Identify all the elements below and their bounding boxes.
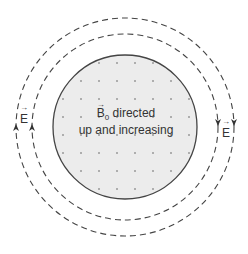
field-description: B0 directed up and increasing bbox=[78, 107, 174, 137]
e-field-label-left: E bbox=[20, 112, 28, 126]
b-symbol: B bbox=[97, 107, 105, 120]
e-field-label-right: E bbox=[222, 126, 230, 140]
